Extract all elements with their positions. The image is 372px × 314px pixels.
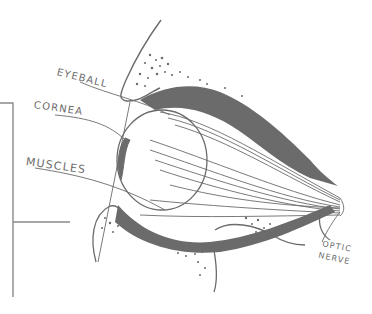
brow-bone	[121, 20, 161, 101]
eye-anatomy-drawing	[0, 0, 372, 314]
bracket	[0, 103, 70, 297]
lower-orbit-shadow	[115, 205, 335, 253]
eyeball-shape	[117, 110, 207, 210]
